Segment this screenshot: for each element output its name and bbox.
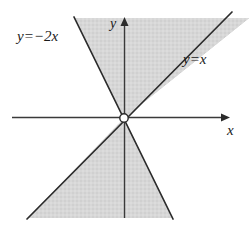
x-axis-arrow-icon [221,114,230,122]
equation-label-y-equals-neg-2x: y=−2x [17,29,58,44]
shaded-region-lower [28,118,172,218]
x-axis-label: x [227,123,234,138]
y-axis-label: y [110,17,116,31]
equation-label-y-equals-x: y=x [183,52,206,67]
shaded-region-upper-main [75,12,249,118]
graph-figure: y=−2x y=x y x [0,0,249,246]
origin-open-circle-icon [120,114,128,122]
